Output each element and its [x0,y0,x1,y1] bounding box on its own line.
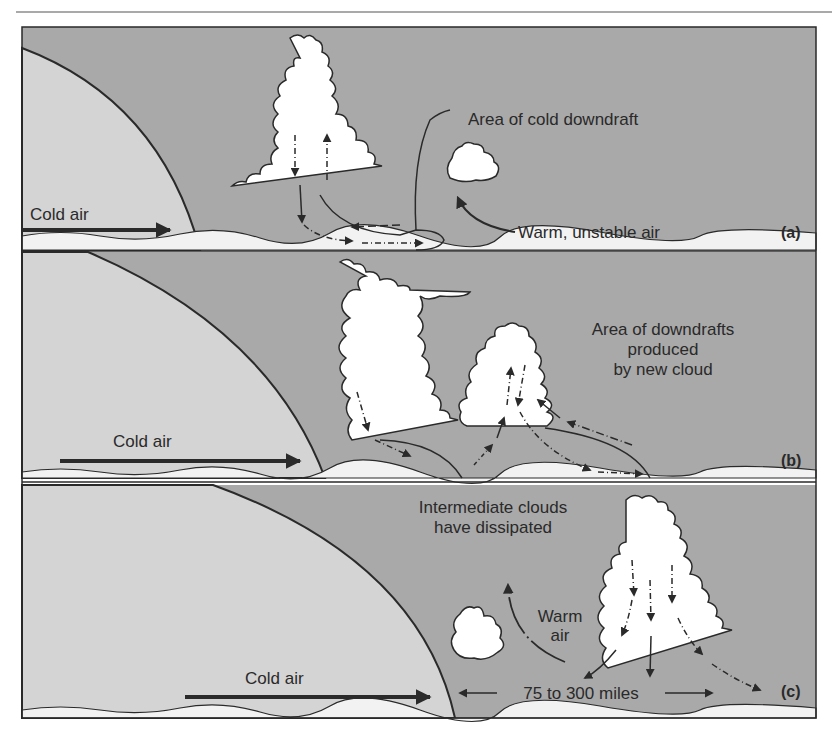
panel-tag-a: (a) [781,224,801,241]
thunderstorm-diagram: Cold air Area of cold downdraft Warm, un… [0,0,832,737]
cold-air-label-c: Cold air [245,669,304,688]
label-dissipated-line1: Intermediate clouds [419,498,567,517]
label-distance: 75 to 300 miles [523,684,638,703]
label-downdrafts-line3: by new cloud [613,360,712,379]
label-cold-downdraft: Area of cold downdraft [468,110,638,129]
label-warm-air-line2: air [551,626,570,645]
label-dissipated-line2: have dissipated [434,518,552,537]
cold-air-label-b: Cold air [113,432,172,451]
panel-a: Cold air Area of cold downdraft Warm, un… [22,27,816,250]
label-downdrafts-line2: produced [628,340,699,359]
label-downdrafts-line1: Area of downdrafts [592,320,735,339]
label-warm-air-line1: Warm [538,607,583,626]
cold-air-label-a: Cold air [30,205,89,224]
panel-tag-c: (c) [781,683,801,700]
label-warm-unstable-air: Warm, unstable air [518,223,660,242]
panel-tag-b: (b) [781,452,801,469]
panel-b: Cold air Area of downdrafts produced by … [22,252,816,484]
panel-c: Cold air Intermediate clouds have dissip… [22,485,816,722]
